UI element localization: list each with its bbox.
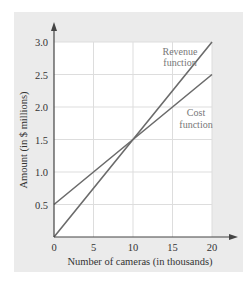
y-tick-label: 3.0 (35, 37, 48, 48)
x-tick-label: 10 (128, 242, 139, 253)
x-axis-label: Number of cameras (in thousands) (67, 256, 213, 268)
y-tick-label: 1.5 (35, 135, 48, 146)
y-axis-arrow-icon (51, 22, 57, 31)
break-even-chart: 05101520 0.51.01.52.02.53.0 Number of ca… (0, 0, 252, 288)
x-tick-label: 5 (91, 242, 96, 253)
x-tick-label: 0 (51, 242, 56, 253)
revenue-annotation-line1: Revenue (163, 46, 199, 57)
y-axis-label: Amount (in $ millions) (18, 91, 30, 189)
y-tick-label: 2.0 (35, 102, 48, 113)
cost-annotation-line2: function (179, 119, 212, 130)
x-tick-labels: 05101520 (51, 242, 217, 253)
x-tick-label: 15 (167, 242, 178, 253)
cost-annotation-line1: Cost (187, 107, 206, 118)
y-tick-labels: 0.51.01.52.02.53.0 (35, 37, 48, 211)
x-axis-arrow-icon (229, 234, 238, 240)
y-tick-label: 2.5 (35, 70, 48, 81)
y-tick-label: 0.5 (35, 200, 48, 211)
x-tick-label: 20 (207, 242, 218, 253)
revenue-annotation-line2: function (163, 57, 196, 68)
y-tick-label: 1.0 (35, 167, 48, 178)
